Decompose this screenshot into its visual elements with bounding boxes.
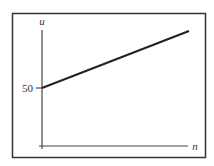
chart-figure: u n 50 [0,0,214,166]
y-axis-label: u [39,15,45,27]
data-line [42,31,189,88]
x-axis-label: n [192,140,198,152]
y-tick-label-50: 50 [22,82,34,94]
